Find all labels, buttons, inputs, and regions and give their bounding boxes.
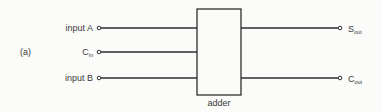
carry-out-label: Cout bbox=[348, 74, 363, 85]
input-a-label: input A bbox=[65, 23, 93, 33]
input-b-terminal: input B bbox=[65, 73, 197, 83]
sum-out-terminal: Sout bbox=[241, 24, 362, 35]
carry-out-label-sub: out bbox=[355, 79, 363, 85]
carry-in-label-sub: in bbox=[89, 52, 93, 58]
figure-label: (a) bbox=[20, 47, 31, 57]
input-a-node bbox=[97, 26, 101, 30]
sum-out-node bbox=[338, 26, 342, 30]
input-a-terminal: input A bbox=[65, 23, 197, 33]
carry-in-label: Cin bbox=[82, 47, 93, 58]
adder-label: adder bbox=[207, 98, 230, 108]
input-b-label: input B bbox=[65, 73, 93, 83]
adder-block bbox=[197, 9, 241, 95]
sum-out-label: Sout bbox=[348, 24, 362, 35]
carry-out-node bbox=[338, 76, 342, 80]
carry-out-terminal: Cout bbox=[241, 74, 363, 85]
adder-diagram: (a) adder input A Cin input B Sout Cout bbox=[0, 0, 383, 112]
sum-out-label-sub: out bbox=[354, 29, 362, 35]
carry-in-terminal: Cin bbox=[82, 47, 197, 58]
input-b-node bbox=[97, 76, 101, 80]
carry-in-node bbox=[97, 50, 101, 54]
